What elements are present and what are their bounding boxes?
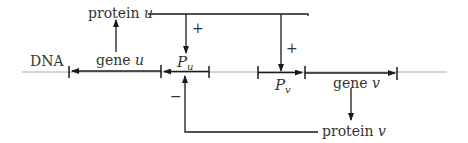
promoter-v-label: Pv — [274, 76, 291, 95]
dna-label: DNA — [30, 53, 64, 69]
promoter-u-label: Pu — [176, 53, 194, 72]
gene-regulation-diagram: DNA gene u protein u Pu Pv gene v protei… — [0, 0, 468, 143]
repression-sign-pu: − — [170, 88, 182, 104]
gene-v-label: gene v — [333, 75, 380, 91]
gene-u-label: gene u — [96, 52, 144, 68]
protein-u-label: protein u — [88, 5, 153, 21]
activation-sign-pv: + — [286, 40, 298, 56]
protein-u-regulation-line — [148, 14, 308, 16]
repression-line-v-to-pu — [185, 76, 318, 132]
protein-v-label: protein v — [322, 123, 386, 139]
activation-sign-pu: + — [192, 20, 204, 36]
